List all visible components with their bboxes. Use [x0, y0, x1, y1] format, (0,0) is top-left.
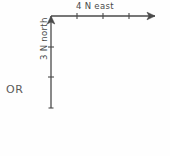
diagram-canvas: OR 4 N east 3 N north [0, 0, 170, 156]
vector-diagram-svg [0, 0, 170, 156]
north-vector-label: 3 N north [39, 17, 49, 60]
east-vector-label: 4 N east [76, 1, 114, 11]
